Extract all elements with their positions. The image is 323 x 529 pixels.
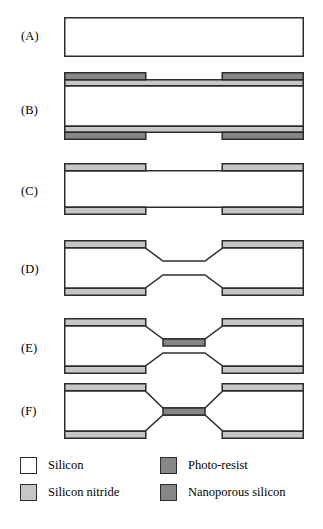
panel-label-a: (A)	[21, 29, 39, 44]
silicon-nitride-bottom-left	[65, 207, 146, 214]
panel-label-f: (F)	[21, 404, 37, 419]
process-flow-figure: (A) (B) (C) (D)	[0, 0, 323, 529]
panel-b-diagram	[64, 72, 304, 140]
silicon-nitride-top-left	[65, 319, 146, 326]
legend-label-photo-resist: Photo-resist	[188, 459, 248, 472]
silicon-substrate	[65, 86, 304, 127]
silicon-substrate	[65, 18, 304, 57]
legend-item-silicon: Silicon	[20, 457, 83, 474]
legend-swatch-silicon	[20, 457, 37, 474]
nanoporous-silicon-layer	[163, 339, 205, 346]
legend-label-nanoporous-silicon: Nanoporous silicon	[188, 486, 286, 499]
legend-label-silicon: Silicon	[48, 459, 83, 472]
silicon-nitride-top-right	[222, 241, 303, 248]
silicon-substrate-etched	[65, 248, 304, 289]
legend-swatch-nanoporous-silicon	[160, 484, 177, 501]
legend-item-silicon-nitride: Silicon nitride	[20, 484, 119, 501]
nanoporous-silicon-membrane	[163, 408, 205, 415]
silicon-nitride-bottom-right	[222, 431, 303, 438]
panel-label-b: (B)	[21, 103, 38, 118]
silicon-nitride-top-left	[65, 241, 146, 248]
silicon-nitride-top-right	[222, 164, 303, 171]
panel-f-diagram	[64, 383, 304, 439]
panel-label-c: (C)	[21, 184, 38, 199]
panel-label-e: (E)	[21, 341, 37, 356]
silicon-nitride-top-left	[65, 164, 146, 171]
silicon-nitride-top-left	[65, 384, 146, 391]
silicon-nitride-bottom-right	[222, 207, 303, 214]
panel-d-diagram	[64, 240, 304, 296]
silicon-nitride-bottom	[65, 126, 304, 132]
legend: Silicon Silicon nitride Photo-resist Nan…	[0, 455, 323, 513]
legend-label-silicon-nitride: Silicon nitride	[48, 486, 119, 499]
legend-item-photo-resist: Photo-resist	[160, 457, 248, 474]
panel-label-d: (D)	[21, 262, 39, 277]
photo-resist-bottom-left	[65, 132, 146, 139]
silicon-nitride-bottom-left	[65, 431, 146, 438]
legend-swatch-photo-resist	[160, 457, 177, 474]
panel-c-diagram	[64, 163, 304, 215]
silicon-nitride-top	[65, 80, 304, 86]
legend-item-nanoporous-silicon: Nanoporous silicon	[160, 484, 286, 501]
silicon-nitride-bottom-right	[222, 366, 303, 373]
panel-e-diagram	[64, 318, 304, 374]
photo-resist-top-right	[222, 73, 303, 80]
legend-swatch-silicon-nitride	[20, 484, 37, 501]
silicon-nitride-bottom-left	[65, 288, 146, 295]
silicon-nitride-bottom-left	[65, 366, 146, 373]
silicon-nitride-bottom-right	[222, 288, 303, 295]
silicon-nitride-top-right	[222, 384, 303, 391]
photo-resist-bottom-right	[222, 132, 303, 139]
silicon-substrate	[65, 171, 304, 208]
panel-a-diagram	[64, 17, 304, 57]
photo-resist-top-left	[65, 73, 146, 80]
silicon-nitride-top-right	[222, 319, 303, 326]
